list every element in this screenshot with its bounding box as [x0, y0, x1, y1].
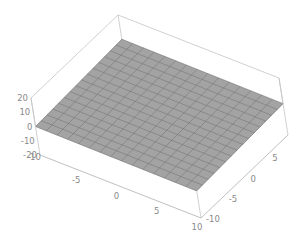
x-tick-label: 10: [192, 222, 203, 232]
y-tick-label: -5: [229, 194, 237, 204]
box-edge: [197, 191, 201, 218]
x-tick-label: 5: [154, 206, 159, 216]
x-tick-label: -5: [72, 175, 80, 185]
x-tick-label: -10: [27, 152, 41, 162]
z-tick-label: -10: [21, 136, 35, 146]
z-tick-label: 0: [27, 122, 32, 132]
y-tick-label: 0: [251, 174, 256, 184]
box-edge: [279, 78, 283, 104]
y-tick-label: 5: [272, 153, 277, 163]
z-axis-ticks: 20100-10-20: [17, 93, 37, 160]
y-tick-label: -10: [206, 214, 220, 224]
z-tick-label: 20: [17, 93, 28, 103]
z-tick-label: 10: [19, 107, 30, 117]
surface-plot-3d: 20100-10-20 -10-50510 -10-50510: [0, 0, 293, 242]
x-tick-label: 0: [114, 191, 119, 201]
